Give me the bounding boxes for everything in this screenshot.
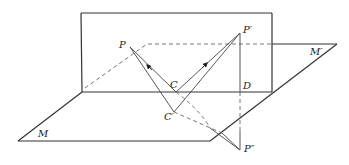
plane-label-m-prime: M′ xyxy=(310,47,323,57)
point-label-p: P xyxy=(119,40,126,50)
point-label-d: D xyxy=(243,81,251,91)
diagram-canvas: P P′ C C′ D P″ M M′ xyxy=(0,0,349,165)
point-label-c-prime: C′ xyxy=(164,112,174,122)
horizontal-plane xyxy=(18,44,337,141)
arrow-icon xyxy=(202,64,206,68)
point-label-p-prime: P′ xyxy=(243,25,252,35)
direction-arrows xyxy=(148,64,206,70)
point-label-p-double-prime: P″ xyxy=(244,144,254,154)
point-label-c: C xyxy=(170,80,178,90)
plane-label-m: M xyxy=(38,129,48,139)
